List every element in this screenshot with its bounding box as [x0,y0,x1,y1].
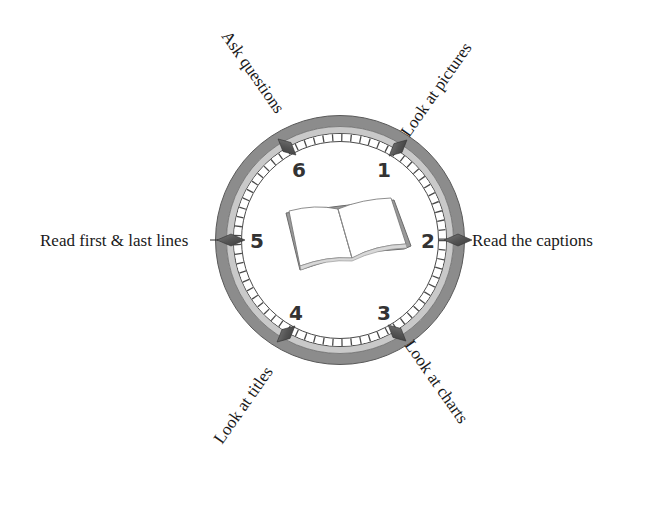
step-label-3: Look at charts [401,336,472,427]
step-label-5: Read first & last lines [40,231,188,250]
step-number-4: 4 [289,301,303,325]
step-number-6: 6 [292,158,306,182]
step-number-2: 2 [421,229,435,253]
open-book-icon [286,198,411,270]
reading-strategies-diagram: 1 2 3 4 5 6 Look at pictures Read the ca… [0,0,649,516]
step-number-1: 1 [377,158,391,182]
step-label-6: Ask questions [218,27,289,116]
step-number-5: 5 [250,229,264,253]
step-label-4: Look at titles [210,363,277,447]
step-number-3: 3 [377,301,391,325]
step-label-2: Read the captions [472,231,593,250]
step-label-1: Look at pictures [397,39,476,140]
